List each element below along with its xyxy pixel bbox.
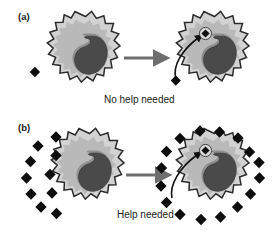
panel-caption-a: No help needed (104, 94, 175, 105)
panel-label-b: (b) (18, 122, 30, 133)
cell-b-left (51, 128, 124, 199)
particle-a-entering (171, 76, 181, 86)
figure-container: (a) No help needed (b) Help needed (0, 0, 276, 236)
panel-caption-b: Help needed (117, 209, 174, 220)
particle-a-free (30, 67, 40, 77)
particle-a-internalized (199, 27, 211, 39)
particle-cloud-b-left (21, 131, 62, 219)
panel-a (30, 11, 249, 85)
cell-uptake-diagram (0, 0, 276, 236)
cell-a-left (47, 11, 120, 82)
particle-b-internalized (199, 144, 211, 156)
panel-label-a: (a) (18, 11, 30, 22)
